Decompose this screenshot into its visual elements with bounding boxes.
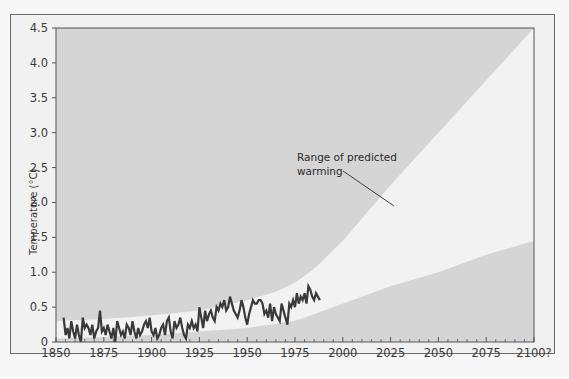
annotation-line1: Range of predicted	[297, 151, 397, 163]
x-tick-label: 1950	[233, 346, 262, 360]
y-tick-label: 1.0	[30, 265, 48, 279]
y-tick-label: 3.5	[30, 91, 48, 105]
y-tick-label: 4.5	[30, 21, 48, 35]
x-tick-label: 2100?	[516, 346, 551, 360]
y-tick-label: 4.0	[30, 56, 48, 70]
y-axis-label: Temperature (°C)	[28, 169, 39, 256]
x-tick-label: 2000	[328, 346, 357, 360]
plot-area	[56, 28, 534, 342]
annotation-line2: warming	[297, 165, 343, 177]
x-tick-label: 2075	[472, 346, 501, 360]
y-tick-label: 0.5	[30, 300, 48, 314]
x-tick-label: 2025	[376, 346, 405, 360]
y-tick-label: 3.0	[30, 126, 48, 140]
x-tick-label: 1975	[280, 346, 309, 360]
x-tick-label: 1925	[185, 346, 214, 360]
x-tick-label: 1875	[89, 346, 118, 360]
x-tick-label: 1850	[41, 346, 70, 360]
x-tick-label: 2050	[424, 346, 453, 360]
temperature-chart: 00.51.01.52.02.53.03.54.04.5185018751900…	[0, 0, 569, 379]
x-tick-label: 1900	[137, 346, 166, 360]
